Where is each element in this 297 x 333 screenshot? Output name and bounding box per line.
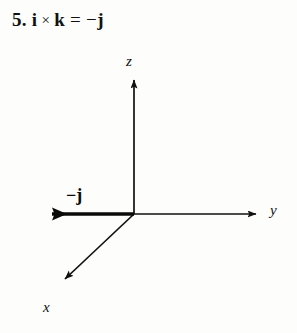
axes-diagram — [0, 0, 297, 333]
minus-j-vector-label: −j — [66, 186, 82, 204]
x-axis-label: x — [43, 300, 50, 315]
figure-page: 5.i×k=−j z y x −j — [0, 0, 297, 333]
y-axis-label: y — [270, 203, 277, 218]
x-axis-line — [65, 214, 134, 279]
z-axis-label: z — [126, 54, 132, 69]
